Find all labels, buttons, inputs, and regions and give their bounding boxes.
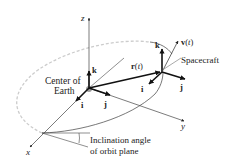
- earth-j-vector: [89, 88, 110, 95]
- earth-k-label: k: [92, 65, 97, 75]
- x-axis-label: x: [25, 147, 30, 157]
- spacecraft-j-vector: [162, 72, 185, 79]
- orbit-front-arc-top: [150, 42, 172, 54]
- spacecraft-i-label: i: [141, 84, 144, 94]
- position-vector: [89, 72, 160, 88]
- z-axis-label: z: [80, 13, 85, 23]
- earth-label-line1: Center of: [45, 76, 81, 86]
- spacecraft-label: Spacecraft: [181, 55, 219, 65]
- inclination-angle-arc: [79, 133, 80, 143]
- earth-i-label: i: [81, 100, 84, 110]
- inclination-label-line1: Inclination angle: [90, 135, 151, 145]
- inclination-tilt-line: [42, 133, 88, 147]
- position-vector-label: r(t): [131, 61, 143, 71]
- earth-label-line2: Earth: [54, 86, 75, 96]
- inclination-label-line2: of orbit plane: [90, 146, 139, 156]
- spacecraft-j-label: j: [179, 82, 183, 92]
- velocity-label: v(t): [181, 37, 193, 47]
- orbit-diagram: z y x Center of Earth k i j r(t) k i j v…: [0, 0, 239, 163]
- orbit-back-dashed: [17, 41, 150, 133]
- y-axis-label: y: [180, 121, 185, 131]
- velocity-vector: [162, 41, 178, 72]
- spacecraft-k-label: k: [155, 40, 160, 50]
- earth-j-label: j: [103, 99, 107, 109]
